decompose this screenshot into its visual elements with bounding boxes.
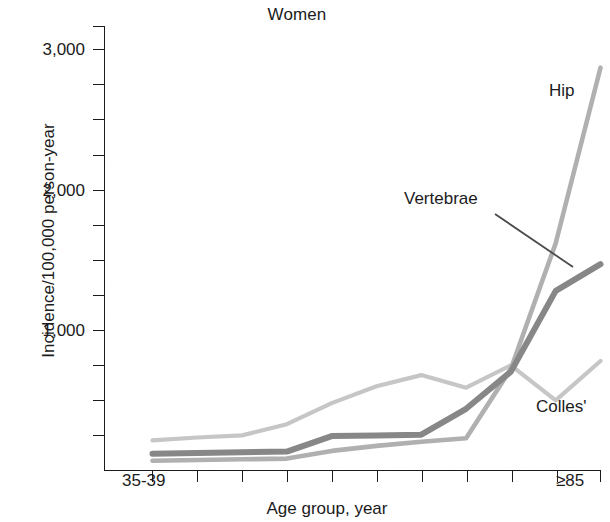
line-chart-plot [0,0,610,522]
y-axis-title: Incidence/100,000 person-year [40,91,57,391]
x-tick-label-first: 35-39 [122,472,165,489]
y-tick-label-2000: 2,000 [0,182,85,199]
chart-title-text: Women [268,5,327,24]
series-label-colles: Colles' [536,398,587,415]
x-tick-label-last: ≥85 [556,472,584,489]
x-axis-title-text: Age group, year [267,499,388,518]
x-axis-title: Age group, year [0,500,610,517]
series-label-hip: Hip [549,82,575,99]
chart-title: Women [0,6,610,23]
y-tick-label-3000: 3,000 [0,41,85,58]
figure-container: Women Incidence/100,000 person-year Age … [0,0,610,522]
y-tick-label-1000: 1,000 [0,322,85,339]
series-label-vertebrae: Vertebrae [404,190,478,207]
